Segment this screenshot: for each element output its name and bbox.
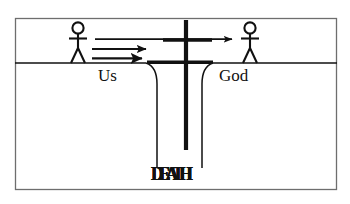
death-chasm <box>146 63 213 168</box>
chasm-left-wall <box>146 63 157 168</box>
god-figure-head <box>244 22 255 33</box>
cross <box>163 20 212 150</box>
label-death: DEATH <box>151 164 188 183</box>
label-god: God <box>219 67 248 84</box>
chasm-right-wall <box>202 63 213 168</box>
god-figure-legs <box>243 48 257 63</box>
illustration-canvas: Us God DEATH <box>0 0 350 204</box>
god-stick-figure <box>241 22 259 63</box>
us-stick-figure <box>69 22 87 63</box>
label-us: Us <box>98 67 117 84</box>
us-figure-head <box>72 22 83 33</box>
us-figure-legs <box>71 48 85 63</box>
